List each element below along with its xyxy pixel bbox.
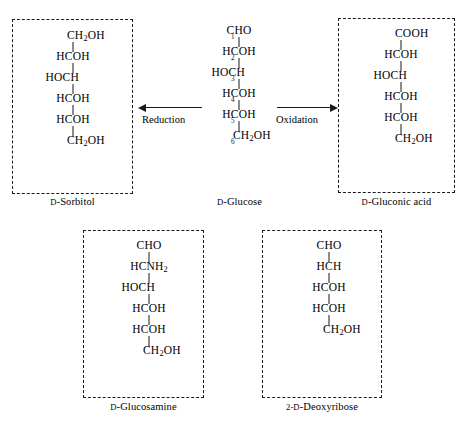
glucosamine-row: HOCH — [118, 282, 180, 303]
caption-glucose-rest: -Glucose — [223, 196, 262, 207]
sorbitol-row: HCOH — [42, 51, 104, 72]
caption-deoxyribose-rest: -Deoxyribose — [300, 401, 358, 412]
reduction-arrow — [145, 107, 202, 108]
glucosamine-row: CHO — [118, 240, 180, 261]
glucose-group: HCOH — [222, 46, 255, 58]
gluconic-group: CH2OH — [395, 133, 433, 146]
deoxyribose-row: HCOH — [298, 303, 360, 324]
glucosamine-group: CH2OH — [143, 345, 181, 358]
gluconic-group: HCOH — [384, 112, 417, 124]
sorbitol-row: CH2OH — [42, 135, 104, 156]
glucose-group: HCOH — [222, 109, 255, 121]
sorbitol-row: HOCH — [42, 72, 104, 93]
structure-glucose: CHO1HCOH2HOCH3HCOH4HCOH5CH2OH6 — [208, 25, 270, 151]
deoxyribose-row: HCOH — [298, 282, 360, 303]
sorbitol-group: HCOH — [56, 114, 89, 126]
gluconic-group: HCOH — [384, 49, 417, 61]
glucose-row: HCOH5 — [208, 109, 270, 130]
glucosamine-row: HCOH — [118, 303, 180, 324]
sorbitol-group: HCOH — [56, 93, 89, 105]
carbon-number: 3 — [231, 76, 235, 83]
glucose-row: CHO1 — [208, 25, 270, 46]
glucose-row: HCOH4 — [208, 88, 270, 109]
gluconic-row: CH2OH — [370, 133, 432, 154]
oxidation-label: Oxidation — [276, 114, 318, 125]
structure-gluconic-acid: COOHHCOHHOCHHCOHHCOHCH2OH — [370, 28, 432, 154]
deoxyribose-group: HCH — [317, 261, 342, 273]
gluconic-row: HCOH — [370, 91, 432, 112]
glucosamine-group: HOCH — [122, 282, 155, 294]
glucosamine-row: HCNH2 — [118, 261, 180, 282]
sorbitol-row: HCOH — [42, 93, 104, 114]
deoxyribose-row: HCH — [298, 261, 360, 282]
caption-gluconic-acid: D-Gluconic acid — [336, 196, 457, 207]
glucosamine-group: HCOH — [132, 303, 165, 315]
caption-gluconic-rest: -Gluconic acid — [368, 196, 432, 207]
caption-glucosamine: D-Glucosamine — [83, 401, 204, 412]
reduction-label: Reduction — [142, 114, 185, 125]
glucosamine-group: HCOH — [132, 324, 165, 336]
caption-sorbitol-rest: -Sorbitol — [57, 196, 95, 207]
deoxyribose-group: CHO — [317, 240, 342, 252]
oxidation-arrow — [277, 107, 331, 108]
carbon-number: 5 — [231, 118, 235, 125]
caption-glucose: D-Glucose — [192, 196, 287, 207]
structure-sorbitol: CH2OHHCOHHOCHHCOHHCOHCH2OH — [42, 30, 104, 156]
gluconic-group: HCOH — [384, 91, 417, 103]
gluconic-group: HOCH — [374, 70, 407, 82]
glucose-row: CH2OH6 — [208, 130, 270, 151]
deoxyribose-row: CHO — [298, 240, 360, 261]
structure-glucosamine: CHOHCNH2HOCHHCOHHCOHCH2OH — [118, 240, 180, 366]
caption-sorbitol: D-Sorbitol — [12, 196, 133, 207]
carbon-number: 2 — [231, 55, 235, 62]
sorbitol-group: HCOH — [56, 51, 89, 63]
glucosamine-row: HCOH — [118, 324, 180, 345]
structure-deoxyribose: CHOHCHHCOHHCOHCH2OH — [298, 240, 360, 345]
deoxyribose-row: CH2OH — [298, 324, 360, 345]
figure-canvas: CH2OHHCOHHOCHHCOHHCOHCH2OH D-Sorbitol CH… — [0, 0, 466, 432]
carbon-number: 6 — [231, 139, 235, 146]
gluconic-group: COOH — [395, 28, 428, 40]
sorbitol-group: CH2OH — [67, 135, 105, 148]
gluconic-row: HCOH — [370, 49, 432, 70]
caption-glucosamine-rest: -Glucosamine — [117, 401, 177, 412]
gluconic-row: HCOH — [370, 112, 432, 133]
caption-deoxyribose: 2-D-Deoxyribose — [262, 401, 382, 412]
glucose-row: HOCH3 — [208, 67, 270, 88]
gluconic-row: COOH — [370, 28, 432, 49]
sorbitol-group: HOCH — [46, 72, 79, 84]
glucose-group: CH2OH — [233, 130, 271, 143]
deoxyribose-group: HCOH — [312, 282, 345, 294]
sorbitol-row: HCOH — [42, 114, 104, 135]
glucose-group: HOCH — [212, 67, 245, 79]
deoxyribose-group: HCOH — [312, 303, 345, 315]
caption-deoxyribose-prefix: 2-D — [286, 402, 300, 412]
carbon-number: 4 — [231, 97, 235, 104]
glucose-group: HCOH — [222, 88, 255, 100]
carbon-number: 1 — [231, 34, 235, 41]
sorbitol-row: CH2OH — [42, 30, 104, 51]
glucose-row: HCOH2 — [208, 46, 270, 67]
gluconic-row: HOCH — [370, 70, 432, 91]
glucosamine-group: CHO — [137, 240, 162, 252]
deoxyribose-group: CH2OH — [323, 324, 361, 337]
glucosamine-row: CH2OH — [118, 345, 180, 366]
